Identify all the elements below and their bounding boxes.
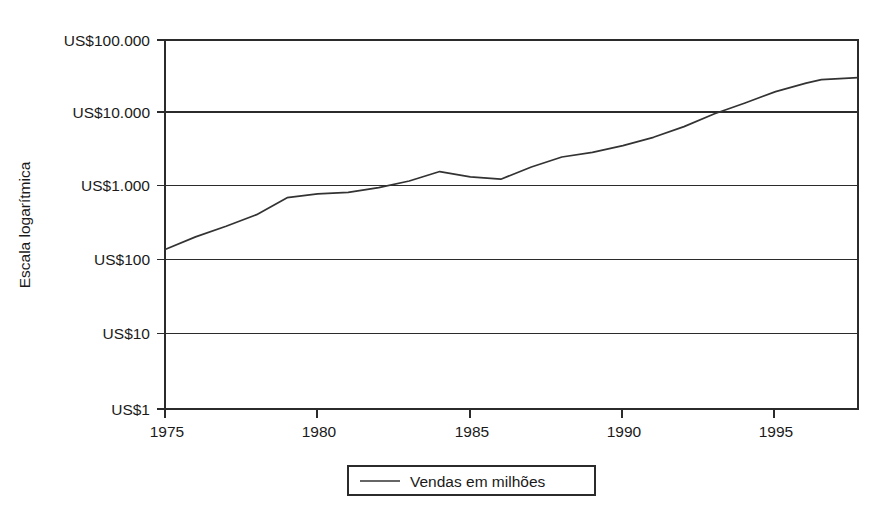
legend: Vendas em milhões <box>348 466 595 495</box>
series-line-vendas-em-milhoes <box>165 78 858 250</box>
x-tick-label-1990: 1990 <box>607 423 642 440</box>
y-tick-label-1: US$1 <box>111 401 150 418</box>
chart-container: US$100.000 US$10.000 US$1.000 US$100 US$… <box>0 0 882 507</box>
y-axis-title: Escala logarítmica <box>16 161 33 288</box>
x-axis-ticks <box>165 409 774 418</box>
y-tick-label-10: US$10 <box>103 325 151 342</box>
y-tick-label-100: US$100 <box>94 251 150 268</box>
gridlines <box>165 112 858 333</box>
x-tick-label-1995: 1995 <box>759 423 793 440</box>
x-tick-label-1985: 1985 <box>455 423 489 440</box>
x-tick-label-1980: 1980 <box>302 423 337 440</box>
log-scale-line-chart: US$100.000 US$10.000 US$1.000 US$100 US$… <box>0 0 882 507</box>
y-tick-label-1000: US$1.000 <box>81 177 150 194</box>
legend-label-vendas: Vendas em milhões <box>410 473 546 490</box>
x-axis-tick-labels: 1975 1980 1985 1990 1995 <box>150 423 793 440</box>
y-tick-label-10000: US$10.000 <box>72 104 150 121</box>
y-tick-label-100000: US$100.000 <box>64 32 151 49</box>
y-axis-tick-labels: US$100.000 US$10.000 US$1.000 US$100 US$… <box>64 32 151 418</box>
y-axis-ticks <box>157 40 165 409</box>
plot-frame <box>165 40 858 409</box>
x-tick-label-1975: 1975 <box>150 423 184 440</box>
